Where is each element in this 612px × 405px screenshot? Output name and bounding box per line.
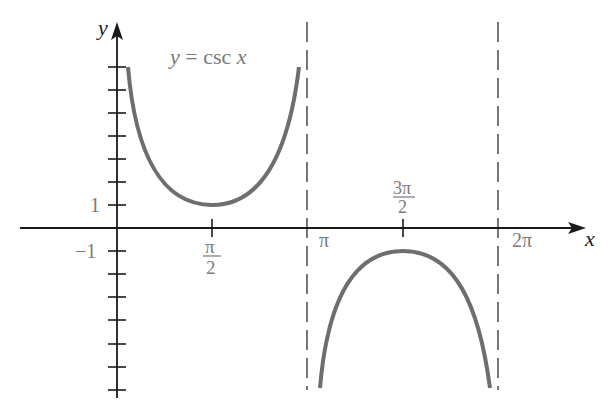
x-label-2pi: 2π: [512, 229, 532, 251]
y-label-minus-1: −1: [75, 240, 96, 262]
csc-chart: y x y = csc x 1 −1 π 2 π 3π 2 2π: [0, 0, 612, 405]
y-label-1: 1: [90, 194, 100, 216]
csc-branch-2: [320, 251, 490, 388]
y-axis-label: y: [96, 15, 108, 40]
x-label-pi-half-den: 2: [206, 257, 216, 278]
x-label-pi-half-num: π: [205, 236, 215, 257]
x-axis-label: x: [584, 226, 595, 251]
x-label-pi: π: [319, 229, 329, 251]
x-label-3pi-half-num: 3π: [393, 178, 411, 198]
csc-branch-1: [128, 67, 299, 205]
chart-title: y = csc x: [168, 44, 247, 69]
x-label-3pi-half-den: 2: [398, 197, 407, 217]
